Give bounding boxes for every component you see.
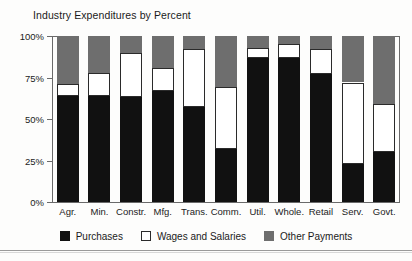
plot-right-edge <box>399 36 400 203</box>
y-tick-0 <box>47 202 53 203</box>
bar-segment-other-payments <box>247 36 269 48</box>
legend-item-purchases[interactable]: Purchases <box>60 231 123 242</box>
chart-legend: PurchasesWages and SalariesOther Payment… <box>0 227 412 245</box>
x-axis-label-serv: Serv. <box>342 206 363 217</box>
bar-segment-other-payments <box>57 36 79 84</box>
bar-min <box>88 36 110 202</box>
x-axis-label-util: Util. <box>249 206 265 217</box>
y-axis-label-25: 25% <box>25 155 44 166</box>
x-axis-label-agr: Agr. <box>59 206 76 217</box>
legend-label: Other Payments <box>280 231 352 242</box>
chart-title: Industry Expenditures by Percent <box>33 9 191 21</box>
outlined-white-square-icon <box>141 231 151 241</box>
bar-segment-other-payments <box>373 36 395 104</box>
y-tick-100 <box>47 36 53 37</box>
bar-segment-purchases <box>183 107 205 202</box>
bar-segment-purchases <box>88 96 110 202</box>
bar-serv <box>342 36 364 202</box>
bar-segment-wages-and-salaries <box>88 73 110 96</box>
solid-gray-square-icon <box>264 231 274 241</box>
bar-segment-wages-and-salaries <box>152 68 174 91</box>
y-tick-50 <box>47 119 53 120</box>
x-axis-label-comm: Comm. <box>211 206 242 217</box>
y-axis-label-50: 50% <box>25 114 44 125</box>
y-tick-75 <box>47 78 53 79</box>
bar-mfg <box>152 36 174 202</box>
x-axis-label-constr: Constr. <box>116 206 146 217</box>
y-tick-25 <box>47 161 53 162</box>
bar-segment-purchases <box>373 152 395 202</box>
x-axis-label-trans: Trans. <box>181 206 208 217</box>
bar-segment-wages-and-salaries <box>278 44 300 57</box>
bar-segment-wages-and-salaries <box>373 104 395 152</box>
bar-retail <box>310 36 332 202</box>
x-axis-labels: Agr.Min.Constr.Mfg.Trans.Comm.Util.Whole… <box>52 206 400 222</box>
y-axis-label-0: 0% <box>30 197 44 208</box>
legend-item-wages-and-salaries[interactable]: Wages and Salaries <box>141 231 246 242</box>
bar-constr <box>120 36 142 202</box>
bar-segment-other-payments <box>278 36 300 44</box>
bar-segment-other-payments <box>88 36 110 73</box>
bar-segment-wages-and-salaries <box>247 48 269 58</box>
x-axis-line <box>52 202 400 203</box>
x-axis-label-whole: Whole. <box>274 206 304 217</box>
bar-segment-purchases <box>278 58 300 202</box>
legend-label: Wages and Salaries <box>157 231 246 242</box>
y-axis-label-100: 100% <box>20 31 44 42</box>
bar-segment-wages-and-salaries <box>310 49 332 74</box>
bar-segment-purchases <box>310 74 332 202</box>
bar-segment-wages-and-salaries <box>57 84 79 96</box>
bar-segment-other-payments <box>120 36 142 53</box>
bar-segment-wages-and-salaries <box>183 49 205 107</box>
bar-whole <box>278 36 300 202</box>
x-axis-label-retail: Retail <box>309 206 333 217</box>
y-axis-label-75: 75% <box>25 72 44 83</box>
y-axis-labels: 0%25%50%75%100% <box>0 36 48 203</box>
footer-divider-secondary <box>0 252 412 253</box>
bar-segment-purchases <box>152 91 174 202</box>
x-axis-label-min: Min. <box>90 206 108 217</box>
bar-segment-purchases <box>215 149 237 202</box>
bar-govt <box>373 36 395 202</box>
bar-comm <box>215 36 237 202</box>
bar-segment-other-payments <box>342 36 364 82</box>
bar-segment-wages-and-salaries <box>120 53 142 98</box>
bar-segment-other-payments <box>183 36 205 49</box>
bar-segment-other-payments <box>152 36 174 68</box>
plot-area <box>52 36 400 203</box>
bar-agr <box>57 36 79 202</box>
bar-segment-purchases <box>120 97 142 202</box>
bar-segment-wages-and-salaries <box>215 87 237 148</box>
bar-segment-purchases <box>342 164 364 202</box>
bar-segment-wages-and-salaries <box>342 83 364 164</box>
bar-segment-other-payments <box>215 36 237 87</box>
bar-segment-other-payments <box>310 36 332 49</box>
bar-segment-purchases <box>57 96 79 202</box>
bar-segment-purchases <box>247 58 269 202</box>
x-axis-label-govt: Govt. <box>373 206 396 217</box>
chart-figure: Industry Expenditures by Percent 0%25%50… <box>0 0 412 261</box>
legend-label: Purchases <box>76 231 123 242</box>
bar-trans <box>183 36 205 202</box>
bar-util <box>247 36 269 202</box>
solid-black-square-icon <box>60 231 70 241</box>
footer-divider <box>0 250 412 251</box>
x-axis-label-mfg: Mfg. <box>153 206 171 217</box>
legend-item-other-payments[interactable]: Other Payments <box>264 231 352 242</box>
